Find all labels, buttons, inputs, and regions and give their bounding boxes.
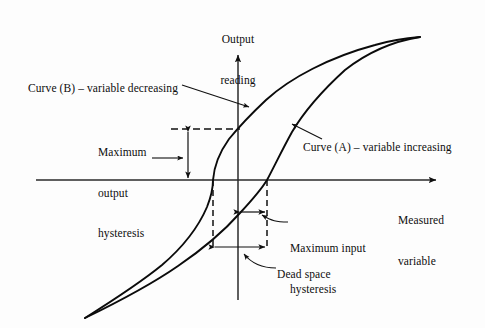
- axis-y-title-line2: reading: [190, 74, 286, 88]
- max-output-hysteresis-line1: Maximum: [98, 146, 147, 160]
- axis-x-title-line2: variable: [398, 255, 485, 269]
- axis-y-title: Output reading: [190, 6, 286, 114]
- hysteresis-diagram: Output reading Measured variable Curve (…: [0, 0, 485, 328]
- curve-a-label: Curve (A) – variable increasing: [303, 141, 452, 155]
- max-input-hysteresis-line2: hysteresis: [290, 283, 366, 297]
- max-output-hysteresis-label: Maximum output hysteresis: [98, 119, 147, 268]
- max-input-hysteresis-measure: [240, 212, 288, 222]
- max-output-hysteresis-line2: output: [98, 187, 147, 201]
- dead-space-measure: [215, 247, 276, 268]
- max-input-hysteresis-line1: Maximum input: [290, 242, 366, 256]
- dead-space-leader: [244, 254, 276, 268]
- dead-space-label: Dead space: [277, 268, 331, 282]
- axis-x-title: Measured variable: [398, 187, 485, 295]
- axis-y-title-line1: Output: [190, 33, 286, 47]
- axis-x-title-line1: Measured: [398, 214, 485, 228]
- curve-b-label: Curve (B) – variable decreasing: [28, 82, 178, 96]
- curve-a-leader: [292, 124, 322, 139]
- max-input-hysteresis-leader: [262, 215, 288, 222]
- max-output-hysteresis-line3: hysteresis: [98, 227, 147, 241]
- max-output-hysteresis-measure: [152, 129, 240, 178]
